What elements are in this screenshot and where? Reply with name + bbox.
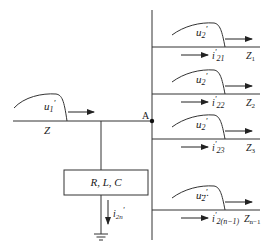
branch-line-3: u2' i'23 Z3 bbox=[152, 115, 260, 155]
incoming-impedance-label: Z bbox=[44, 124, 51, 136]
branch-wave-label: u2' bbox=[196, 24, 209, 40]
node-a bbox=[150, 119, 154, 123]
shunt-branch: R, L, C i2n' bbox=[64, 121, 148, 240]
node-a-label: A bbox=[142, 110, 150, 121]
branch-impedance-label: Z1 bbox=[246, 50, 256, 63]
branch-impedance-label: Z3 bbox=[246, 142, 256, 155]
incoming-wave bbox=[14, 94, 67, 121]
branch-line-2: u2' i'22 Z2 bbox=[152, 70, 260, 110]
ground-icon bbox=[94, 234, 108, 240]
branch-line-1: u2' i'21 Z1 bbox=[152, 23, 260, 63]
branch-current-label: i'23 bbox=[212, 140, 225, 155]
branch-current-label: i'22 bbox=[212, 95, 225, 110]
circuit-diagram: u1' Z A R, L, C i2n' ... u2' i'21 Z1 bbox=[0, 0, 273, 249]
branch-current-label: i'2(n−1) bbox=[212, 211, 240, 226]
branch-wave-label: u2' bbox=[196, 71, 209, 87]
rlc-label: R, L, C bbox=[89, 176, 122, 188]
branch-impedance-label: Z2 bbox=[246, 97, 256, 110]
shunt-current-label: i2n' bbox=[113, 206, 125, 221]
branch-current-label: i'21 bbox=[212, 48, 225, 63]
branch-impedance-label: Zn−1 bbox=[244, 213, 261, 226]
branch-line-4: u2' i'2(n−1) Zn−1 bbox=[152, 186, 261, 226]
incoming-line: u1' Z bbox=[13, 94, 152, 136]
branch-wave-label: u2' bbox=[196, 116, 209, 132]
incoming-wave-label: u1' bbox=[44, 98, 57, 114]
